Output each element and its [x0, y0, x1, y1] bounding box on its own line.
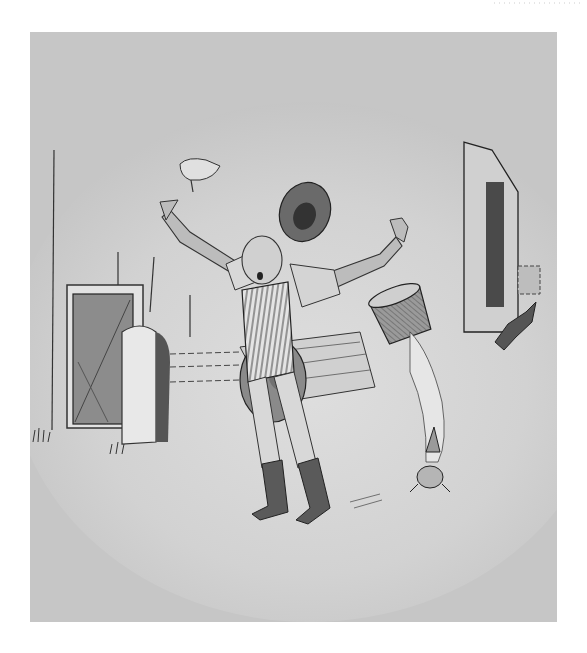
mouth [257, 272, 263, 280]
illustration [30, 32, 557, 622]
edge-dots [492, 2, 584, 4]
post [122, 326, 170, 444]
illustration-frame [30, 32, 557, 622]
striped-vest [242, 282, 294, 382]
